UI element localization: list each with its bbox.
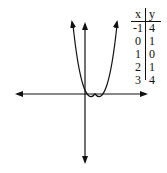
header-y: y: [145, 8, 159, 21]
table-row: 3 4: [131, 74, 161, 87]
table-header: x y: [131, 8, 161, 22]
values-table: x y -1 4 0 1 1 0 2 1 3 4: [131, 8, 161, 87]
parabola-left-arrow: [72, 22, 73, 27]
cell-x: 3: [131, 74, 145, 87]
table-divider: [145, 8, 146, 80]
header-x: x: [131, 8, 145, 21]
parabola-curve: [73, 25, 117, 97]
cell-y: 4: [145, 74, 159, 87]
